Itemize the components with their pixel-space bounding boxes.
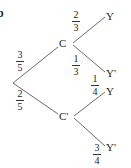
prob-c-prime-numerator: 2 [17,89,24,99]
prob-c-prime-y-denominator: 4 [93,87,98,97]
prob-c-numerator: 3 [17,50,24,60]
leaf-c-prime-y-label: Y [106,86,114,97]
leaf-c-y-label: Y [106,11,114,22]
node-c-prime-label: C' [59,111,68,122]
prob-c-y-prime: 1 3 [72,54,80,77]
prob-c: 3 5 [16,50,24,73]
prob-c-prime-y-prime-denominator: 4 [95,156,100,166]
prob-c-y-prime-denominator: 3 [74,67,79,77]
prob-c-prime-y: 1 4 [91,74,99,97]
prob-c-prime: 2 5 [16,89,24,112]
prob-c-y-prime-numerator: 1 [73,54,80,64]
prob-c-y-numerator: 2 [73,10,80,20]
probability-tree-diagram: b C C' 3 5 2 5 Y Y' Y Y' 2 3 1 3 1 4 3 4 [0,0,131,168]
prob-c-prime-denominator: 5 [18,102,23,112]
prob-c-y: 2 3 [72,10,80,33]
part-label: b [0,6,4,21]
prob-c-prime-y-numerator: 1 [92,74,99,84]
prob-c-prime-y-prime-numerator: 3 [94,143,101,153]
prob-c-prime-y-prime: 3 4 [93,143,101,166]
branch-c-prime-to-y [74,92,105,116]
branch-c-prime-to-y-prime [74,118,105,146]
node-c-label: C [59,38,66,49]
prob-c-y-denominator: 3 [74,23,79,33]
leaf-c-prime-y-prime-label: Y' [106,142,116,153]
leaf-c-y-prime-label: Y' [106,68,116,79]
prob-c-denominator: 5 [18,63,23,73]
